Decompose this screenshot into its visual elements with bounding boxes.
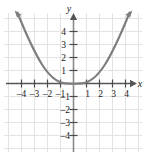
- y-axis-label: y: [66, 3, 72, 14]
- y-tick-label-neg2: –2: [60, 105, 71, 115]
- x-tick-label-neg4: –4: [16, 89, 27, 99]
- y-tick-label-neg4: –4: [60, 131, 71, 141]
- x-axis-label: x: [137, 78, 143, 89]
- x-tick-label-pos1: 1: [85, 89, 90, 99]
- x-tick-label-pos3: 3: [111, 89, 116, 99]
- x-tick-label-neg2: –2: [42, 89, 53, 99]
- x-tick-label-pos4: 4: [124, 89, 129, 99]
- graph-figure: –4 –3 –2 –1 1 2 3 4 4 3 2 1 –1 –2 –3 –4 …: [0, 0, 145, 162]
- coordinate-plane: –4 –3 –2 –1 1 2 3 4 4 3 2 1 –1 –2 –3 –4 …: [0, 0, 145, 162]
- y-tick-label-neg1: –1: [60, 92, 71, 102]
- y-tick-label-pos3: 3: [61, 40, 66, 50]
- y-tick-label-neg3: –3: [60, 118, 71, 128]
- y-tick-label-pos4: 4: [61, 27, 66, 37]
- y-tick-label-pos2: 2: [61, 53, 66, 63]
- y-tick-label-pos1: 1: [61, 66, 66, 76]
- x-tick-label-pos2: 2: [98, 89, 103, 99]
- x-tick-label-neg3: –3: [29, 89, 40, 99]
